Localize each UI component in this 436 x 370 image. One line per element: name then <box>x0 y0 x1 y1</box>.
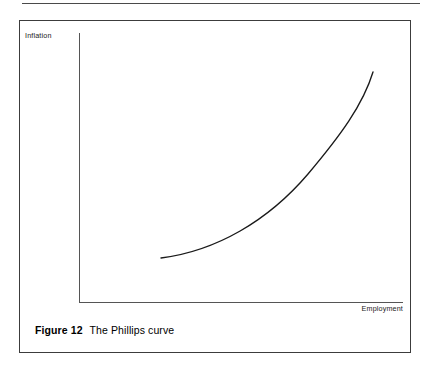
plot-area: Inflation Employment <box>20 21 410 352</box>
x-axis-label: Employment <box>20 305 403 312</box>
phillips-curve-path <box>161 72 373 258</box>
figure-caption-title: The Phillips curve <box>90 324 175 336</box>
figure-caption: Figure 12The Phillips curve <box>35 324 174 337</box>
figure-box: Inflation Employment Figure 12The Philli… <box>19 20 411 353</box>
y-axis-label: Inflation <box>25 32 52 39</box>
page-top-rule <box>22 3 420 4</box>
figure-caption-number: Figure 12 <box>35 324 83 336</box>
